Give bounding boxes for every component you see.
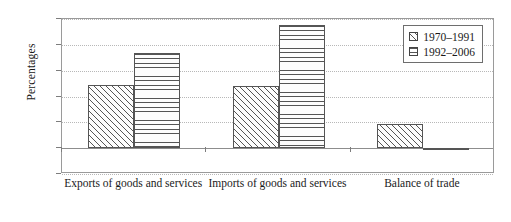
x-axis-category-labels: Exports of goods and servicesImports of …: [61, 176, 494, 220]
legend: 1970–1991 1992–2006: [403, 25, 483, 63]
bar: [233, 86, 279, 148]
y-axis-title: Percentages: [25, 12, 37, 132]
gridline: [62, 71, 493, 72]
x-axis-tick-mark: [61, 147, 62, 152]
legend-item: 1970–1991: [409, 29, 475, 44]
legend-item: 1992–2006: [409, 44, 475, 59]
gridline: [62, 19, 493, 20]
x-axis-category-label: Imports of goods and services: [205, 176, 349, 191]
bar: [134, 53, 180, 149]
gridline: [62, 174, 493, 175]
x-axis-tick-mark: [350, 147, 351, 152]
bar: [423, 148, 469, 150]
x-axis-tick-mark: [205, 147, 206, 152]
bar: [88, 85, 134, 148]
bar: [279, 25, 325, 148]
chart-figure: Percentages 1086420-2 1970–1991 1992–200…: [0, 0, 511, 222]
plot-area: 1970–1991 1992–2006: [61, 18, 494, 173]
legend-swatch-diagonal-hatch-icon: [409, 32, 418, 41]
bar: [377, 124, 423, 149]
y-axis-tick-mark: [56, 173, 61, 174]
x-axis-category-label: Exports of goods and services: [61, 176, 205, 191]
legend-label: 1970–1991: [423, 31, 475, 43]
x-axis-category-label: Balance of trade: [350, 176, 494, 191]
legend-swatch-horizontal-hatch-icon: [409, 47, 418, 56]
legend-label: 1992–2006: [423, 46, 475, 58]
